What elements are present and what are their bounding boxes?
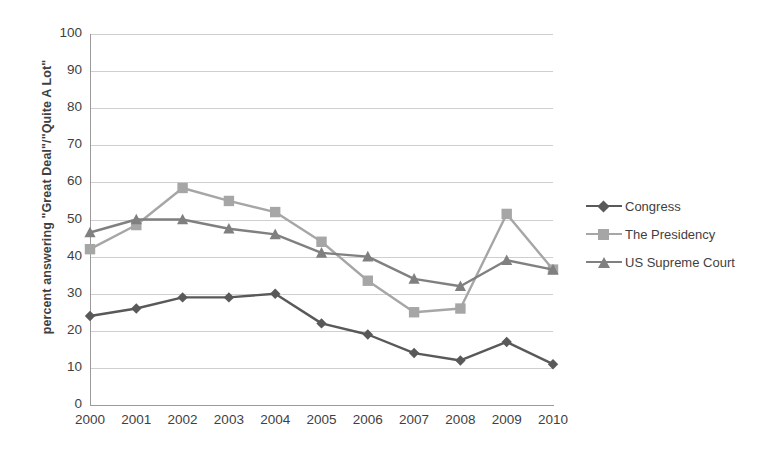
series-layer <box>90 34 553 405</box>
y-axis-ticks: 0102030405060708090100 <box>36 34 82 405</box>
data-point <box>455 355 465 365</box>
y-tick-label: 10 <box>36 359 82 374</box>
y-tick-label: 40 <box>36 248 82 263</box>
legend-key <box>586 226 622 242</box>
data-point <box>177 183 187 193</box>
legend-label: US Supreme Court <box>622 255 735 270</box>
data-point <box>131 303 141 313</box>
y-tick-label: 0 <box>36 396 82 411</box>
legend-marker-triangle <box>598 257 610 268</box>
legend-item-congress[interactable]: Congress <box>586 192 756 220</box>
legend-marker-diamond <box>597 200 609 212</box>
y-tick-label: 60 <box>36 173 82 188</box>
legend-key <box>586 198 622 214</box>
series-line <box>90 294 553 364</box>
y-tick-label: 20 <box>36 322 82 337</box>
data-point <box>224 196 234 206</box>
x-axis-line <box>90 405 554 406</box>
legend-key <box>586 254 622 270</box>
x-axis-ticks: 2000200120022003200420052006200720082009… <box>90 412 553 436</box>
y-tick-label: 70 <box>36 136 82 151</box>
data-point <box>502 209 512 219</box>
data-point <box>85 244 95 254</box>
data-point <box>224 292 234 302</box>
legend-item-the-presidency[interactable]: The Presidency <box>586 220 756 248</box>
y-tick-label: 100 <box>36 25 82 40</box>
series-congress <box>85 289 558 370</box>
line-chart: percent answering "Great Deal"/"Quite A … <box>0 0 759 466</box>
x-tick-label: 2010 <box>523 412 583 427</box>
data-point <box>316 237 326 247</box>
legend-label: Congress <box>622 199 681 214</box>
data-point <box>85 311 95 321</box>
y-tick-label: 30 <box>36 285 82 300</box>
y-tick-label: 50 <box>36 211 82 226</box>
data-point <box>455 303 465 313</box>
data-point <box>501 255 512 266</box>
legend-marker-square <box>598 229 609 240</box>
data-point <box>502 337 512 347</box>
data-point <box>363 329 373 339</box>
legend: CongressThe PresidencyUS Supreme Court <box>586 192 756 276</box>
y-tick-label: 90 <box>36 62 82 77</box>
data-point <box>177 292 187 302</box>
legend-item-us-supreme-court[interactable]: US Supreme Court <box>586 248 756 276</box>
data-point <box>548 359 558 369</box>
data-point <box>363 276 373 286</box>
data-point <box>409 307 419 317</box>
y-tick-label: 80 <box>36 99 82 114</box>
legend-label: The Presidency <box>622 227 715 242</box>
data-point <box>270 207 280 217</box>
data-point <box>409 348 419 358</box>
